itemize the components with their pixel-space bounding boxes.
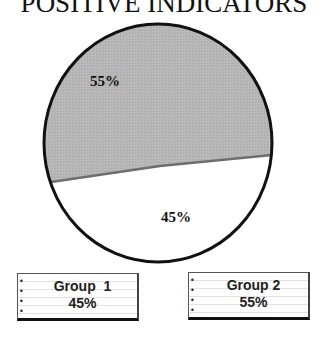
legend-value-group-2: 55% — [199, 294, 308, 311]
spiral-binding-icon: •••• — [190, 276, 198, 316]
legend-card-group-2: •••• Group 2 55% — [188, 272, 310, 320]
slice-label-group-1: 45% — [161, 209, 191, 225]
slice-label-group-2: 55% — [90, 73, 120, 89]
legend-label-group-1: Group 1 — [28, 278, 137, 295]
legend-label-group-2: Group 2 — [199, 277, 308, 294]
spiral-binding-icon: •••• — [19, 277, 27, 317]
legend-card-group-1: •••• Group 1 45% — [17, 273, 139, 321]
legend-value-group-1: 45% — [28, 295, 137, 312]
